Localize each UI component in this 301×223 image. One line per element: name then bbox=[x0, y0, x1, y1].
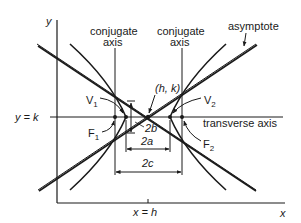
focus-right-point bbox=[180, 115, 184, 119]
dim-2b-label: 2b bbox=[144, 122, 157, 134]
conjugate-axis-left-label-2: axis bbox=[103, 36, 123, 48]
y-axis-label: y bbox=[45, 15, 53, 27]
vertex-right-leader bbox=[173, 98, 201, 113]
conjugate-axis-right-label-2: axis bbox=[170, 36, 190, 48]
center-leader bbox=[149, 95, 155, 113]
vertex-left-label: V1 bbox=[86, 94, 98, 109]
center-label: (h, k) bbox=[155, 82, 180, 94]
vertex-right-label: V2 bbox=[204, 94, 216, 109]
focus-left-label: F1 bbox=[88, 127, 100, 142]
dim-2c-label: 2c bbox=[141, 157, 154, 169]
focus-right-label: F2 bbox=[203, 138, 215, 153]
y-equals-k-label: y = k bbox=[14, 111, 39, 123]
asymptote-label: asymptote bbox=[228, 20, 279, 32]
center-point bbox=[146, 115, 150, 119]
hyperbola-diagram: y x x = h y = k transverse axis conjugat… bbox=[0, 0, 301, 223]
transverse-axis-label: transverse axis bbox=[203, 117, 277, 129]
focus-right-leader bbox=[184, 121, 201, 141]
focus-left-leader bbox=[102, 121, 114, 132]
asymptote-leader bbox=[244, 33, 246, 46]
vertex-left-point bbox=[124, 115, 128, 119]
vertex-right-point bbox=[168, 115, 172, 119]
x-equals-h-label: x = h bbox=[132, 206, 157, 218]
x-axis-label: x bbox=[279, 207, 286, 219]
focus-left-point bbox=[113, 115, 117, 119]
dim-2a-label: 2a bbox=[140, 135, 153, 147]
